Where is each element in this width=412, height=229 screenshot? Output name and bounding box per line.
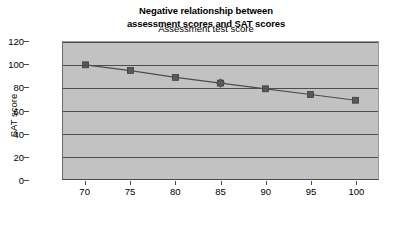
gridline <box>63 65 378 66</box>
x-tick-label: 90 <box>246 186 286 197</box>
data-point-marker <box>128 68 134 74</box>
y-tick-mark <box>24 64 29 65</box>
x-tick-label: 70 <box>65 186 105 197</box>
x-tick-label: 75 <box>110 186 150 197</box>
gridline <box>63 134 378 135</box>
x-tick-mark <box>130 181 131 185</box>
gridline <box>63 42 378 43</box>
x-tick-mark <box>85 181 86 185</box>
x-tick-mark <box>356 181 357 185</box>
x-tick-mark <box>175 181 176 185</box>
y-tick-mark <box>24 111 29 112</box>
gridline <box>63 157 378 158</box>
data-point-marker <box>173 74 179 80</box>
y-axis-title: SAT score <box>8 71 19 161</box>
plot-area <box>62 41 379 180</box>
x-axis: 707580859095100 <box>0 181 412 229</box>
x-tick-label: 85 <box>201 186 241 197</box>
y-tick-mark <box>24 41 29 42</box>
x-tick-label: 95 <box>291 186 331 197</box>
x-tick-mark <box>221 181 222 185</box>
x-tick-label: 100 <box>336 186 376 197</box>
y-tick-mark <box>24 87 29 88</box>
chart-figure: Negative relationship between assessment… <box>0 0 412 229</box>
data-point-marker <box>308 92 314 98</box>
gridline <box>63 111 378 112</box>
x-tick-mark <box>266 181 267 185</box>
x-tick-label: 80 <box>155 186 195 197</box>
gridline <box>63 88 378 89</box>
data-point-marker <box>353 97 359 103</box>
y-tick-label: 100 <box>0 59 24 70</box>
x-tick-mark <box>311 181 312 185</box>
y-tick-mark <box>24 134 29 135</box>
y-tick-mark <box>24 157 29 158</box>
y-tick-label: 120 <box>0 36 24 47</box>
x-axis-title: Assessment test score <box>0 23 412 34</box>
